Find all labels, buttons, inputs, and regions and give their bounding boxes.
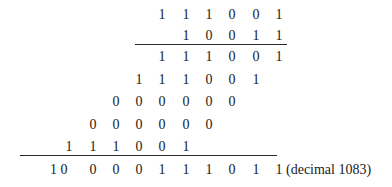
digit: 1 [273,49,285,65]
digit: 0 [226,162,238,178]
digit: 0 [110,162,122,178]
digit: 0 [133,162,145,178]
digit: 0 [226,7,238,23]
multiplier-underline [135,44,287,45]
digit: 0 [226,94,238,110]
digit: 0 [203,94,215,110]
digit: 0 [203,72,215,88]
digit: 1 [133,72,145,88]
digit: 1 [180,162,192,178]
digit: 0 [87,117,99,133]
digit: 1 [203,162,215,178]
digit: 1 [156,162,168,178]
digit: 1 [87,139,99,155]
digit: 0 [156,94,168,110]
digit: 0 [87,162,99,178]
digit: 0 [226,49,238,65]
digit: 1 [203,7,215,23]
digit: 1 [250,72,262,88]
digit: 0 [226,28,238,44]
digit: 0 [226,72,238,88]
digit: 1 [156,72,168,88]
digit: 1 [273,7,285,23]
digit: 1 [180,49,192,65]
digit: 1 [110,139,122,155]
sum-underline [20,155,277,156]
digit: 0 [180,117,192,133]
digit: 0 [110,94,122,110]
digit: 1 [180,139,192,155]
digit: 1 [203,49,215,65]
digit: 1 [273,28,285,44]
digit: 0 [156,117,168,133]
digit: 1 [156,49,168,65]
digit: 1 [63,139,75,155]
digit: 0 [133,117,145,133]
digit: 1 [273,162,285,178]
digit: 0 [133,139,145,155]
digit: 0 [250,49,262,65]
digit: 1 [180,72,192,88]
digit: 0 [156,139,168,155]
result-leading-digits: 1 0 [50,162,68,178]
digit: 1 [250,162,262,178]
digit: 0 [250,7,262,23]
digit: 1 [180,7,192,23]
digit: 0 [203,117,215,133]
digit: 0 [133,94,145,110]
digit: 1 [250,28,262,44]
digit: 1 [156,7,168,23]
digit: 1 [180,28,192,44]
decimal-annotation: (decimal 1083) [286,162,371,178]
digit: 0 [203,28,215,44]
digit: 0 [110,117,122,133]
digit: 0 [180,94,192,110]
